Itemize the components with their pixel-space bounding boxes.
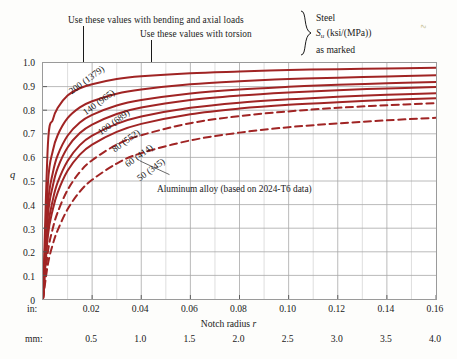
x-tick-label-in: 0.06 bbox=[181, 303, 198, 314]
x-tick-label-in: 0.12 bbox=[328, 303, 345, 314]
x-axis-title-text: Notch radius bbox=[201, 318, 253, 329]
x-axis-title: Notch radius r bbox=[0, 318, 457, 329]
y-tick-label: 0.8 bbox=[23, 104, 35, 115]
x-tick-label-in: 0.02 bbox=[83, 303, 100, 314]
y-tick-label: 0.9 bbox=[23, 80, 35, 91]
y-tick-label: 0.6 bbox=[23, 152, 35, 163]
y-tick-label: 0.3 bbox=[23, 223, 35, 234]
leader-line-callout bbox=[151, 40, 152, 62]
legend-steel-line3: as marked bbox=[316, 43, 371, 58]
su-units-close: ) bbox=[368, 27, 371, 38]
y-axis-ticks: 1.00.90.80.70.60.50.40.30.20.10 bbox=[0, 62, 40, 300]
y-tick-label: 1.0 bbox=[23, 57, 35, 68]
y-tick-label: 0.2 bbox=[23, 247, 35, 258]
callout-torsion: Use these values with torsion bbox=[140, 29, 252, 39]
x-tick-label-mm: 0.5 bbox=[85, 333, 97, 344]
x-tick-label-mm: 3.5 bbox=[380, 333, 392, 344]
x-tick-label-in: 0.14 bbox=[377, 303, 394, 314]
x-tick-label-in: 0.16 bbox=[427, 303, 444, 314]
x-unit-in: in: bbox=[27, 303, 37, 314]
y-axis-label: q bbox=[10, 169, 15, 180]
figure-root: Use these values with bending and axial … bbox=[0, 0, 457, 359]
legend-steel-line1: Steel bbox=[316, 11, 371, 26]
callout-bending-axial: Use these values with bending and axial … bbox=[68, 15, 244, 25]
y-tick-label: 0.7 bbox=[23, 128, 35, 139]
plot-area: 200 (1379)140 (965)100 (689)80 (552)60 (… bbox=[42, 62, 437, 300]
x-tick-label-in: 0.04 bbox=[132, 303, 149, 314]
callout-aluminum: Aluminum alloy (based on 2024-T6 data) bbox=[157, 184, 312, 194]
x-tick-label-mm: 2.0 bbox=[233, 333, 245, 344]
x-tick-label-in: 0.08 bbox=[230, 303, 247, 314]
x-unit-mm: mm: bbox=[25, 333, 43, 344]
y-tick-label: 0.4 bbox=[23, 199, 35, 210]
su-units: (ksi/(MPa) bbox=[324, 27, 368, 38]
x-tick-label-mm: 1.0 bbox=[134, 333, 146, 344]
legend-steel-line2: Su (ksi/(MPa)) bbox=[316, 26, 371, 44]
x-tick-label-mm: 3.0 bbox=[331, 333, 343, 344]
y-tick-label: 0.1 bbox=[23, 271, 35, 282]
steel-legend-brace bbox=[299, 10, 313, 56]
x-tick-label-mm: 4.0 bbox=[429, 333, 441, 344]
x-tick-label-mm: 2.5 bbox=[282, 333, 294, 344]
page-speck-icon: ∿ bbox=[419, 21, 428, 32]
y-tick-label: 0.5 bbox=[23, 176, 35, 187]
steel-legend: Steel Su (ksi/(MPa)) as marked bbox=[316, 11, 371, 58]
x-tick-label-mm: 1.5 bbox=[183, 333, 195, 344]
x-axis-title-var: r bbox=[252, 318, 256, 329]
x-tick-label-in: 0.10 bbox=[279, 303, 296, 314]
leader-line-callout bbox=[83, 26, 84, 62]
